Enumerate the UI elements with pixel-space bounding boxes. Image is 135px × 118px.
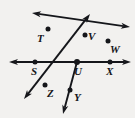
point-label-U: U xyxy=(74,66,82,77)
point-dot-X xyxy=(108,60,113,65)
line-V-Z-segment xyxy=(28,19,86,94)
point-dot-S xyxy=(33,60,38,65)
point-label-Y: Y xyxy=(74,92,81,103)
geometry-figure: T V W S U X Z Y xyxy=(0,0,135,118)
geometry-diagram-canvas xyxy=(0,0,135,118)
point-label-W: W xyxy=(110,44,120,55)
point-dot-Y xyxy=(68,88,73,93)
point-label-S: S xyxy=(31,66,37,77)
point-label-Z: Z xyxy=(47,88,54,99)
line-through-V-U-Z xyxy=(24,14,90,99)
point-label-X: X xyxy=(106,66,113,77)
point-label-V: V xyxy=(88,31,95,42)
point-dot-V xyxy=(83,33,88,38)
point-label-T: T xyxy=(37,33,44,44)
point-dot-T xyxy=(46,27,51,32)
